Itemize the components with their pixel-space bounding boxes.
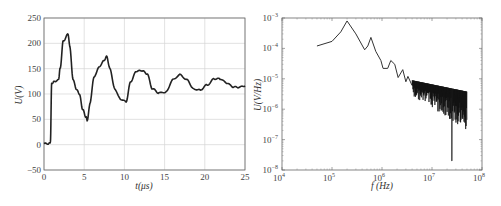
- y-tick-label: 10−6: [263, 103, 278, 114]
- y-tick-label: 10−7: [263, 134, 278, 145]
- left-chart: −50050100150200250 0510152025 t(μs) U(V): [14, 13, 250, 192]
- y-tick-label: 0: [37, 140, 42, 150]
- y-tick-label: 10−3: [263, 12, 278, 23]
- y-tick-label: 100: [28, 89, 42, 99]
- x-tick-label: 107: [423, 172, 435, 183]
- x-tick-label: 10: [120, 172, 130, 182]
- x-tick-label: 0: [42, 172, 47, 182]
- y-tick-label: 200: [28, 38, 42, 48]
- y-tick-label: 50: [32, 114, 42, 124]
- left-voltage-series: [44, 34, 245, 144]
- y-tick-label: 10−5: [263, 73, 278, 84]
- right-y-axis-label: U(V/Hz): [253, 79, 264, 111]
- y-tick-label: 250: [28, 13, 42, 23]
- y-tick-label: 10−4: [263, 42, 278, 53]
- right-spectrum-series: [317, 21, 412, 86]
- x-tick-label: 105: [323, 172, 335, 183]
- left-y-ticks: −50050100150200250: [27, 13, 42, 175]
- x-tick-label: 20: [200, 172, 210, 182]
- figure: −50050100150200250 0510152025 t(μs) U(V)…: [0, 0, 501, 206]
- left-y-axis-label: U(V): [14, 86, 25, 105]
- right-noise-band: [412, 80, 467, 161]
- x-tick-label: 5: [82, 172, 87, 182]
- left-grid: [44, 18, 245, 170]
- y-tick-label: −50: [27, 165, 42, 175]
- x-tick-label: 104: [273, 172, 285, 183]
- y-tick-label: 150: [28, 64, 42, 74]
- left-x-axis-label: t(μs): [135, 181, 152, 192]
- right-chart: 10−310−410−510−610−710−8 104105106107108…: [253, 12, 485, 192]
- x-tick-label: 108: [473, 172, 485, 183]
- x-tick-label: 15: [160, 172, 170, 182]
- right-x-axis-label: f (Hz): [371, 181, 393, 192]
- x-tick-label: 25: [241, 172, 251, 182]
